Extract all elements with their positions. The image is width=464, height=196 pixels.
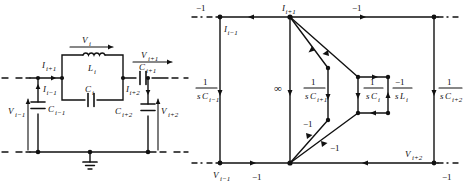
frac-loopc-den-c: C <box>371 91 378 101</box>
label-Cip1: C <box>139 62 146 72</box>
arrowhead-loop-bottom <box>370 111 376 116</box>
node-dot <box>36 150 41 155</box>
label-Iip1-sub: i+1 <box>46 65 56 73</box>
node-label-Vip2-sub: i+2 <box>412 154 423 162</box>
signal-flow-graph: I i−1 I i+1 V i−1 V i+2 −1 −1 −1 −1 −1 −… <box>190 0 464 196</box>
arrow-Iip2-head <box>146 90 151 95</box>
label-Cip2: C <box>115 106 122 116</box>
gain-top-right: −1 <box>352 3 362 13</box>
label-Li: L <box>87 63 93 73</box>
node-dot-loop-tr <box>386 75 390 79</box>
node-dot <box>88 150 93 155</box>
figure-root: V i V i+1 L i C i I i+1 I i−1 I i+2 V i−… <box>0 0 464 196</box>
node-dot-bottom-left <box>218 161 223 166</box>
frac-left-den-s: s <box>197 91 201 101</box>
inductor-Li-coil <box>83 53 105 55</box>
node-label-Vip2: V <box>405 149 412 159</box>
node-dot-bottom-mid <box>287 160 292 165</box>
node-dot <box>146 150 151 155</box>
wire-lc-topleft <box>62 55 83 78</box>
frac-mid-den-c: C <box>310 91 317 101</box>
arrowhead-diag-top-loop <box>323 50 330 56</box>
node-dot-loop-bl <box>356 111 360 115</box>
label-Li-sub: i <box>94 68 96 76</box>
frac-left-den-sub: i−1 <box>209 96 219 104</box>
edge-fan-top-to-mid <box>290 17 328 68</box>
node-dot-mid-bottom <box>326 118 330 122</box>
arrowhead-bottom-left <box>250 160 256 165</box>
frac-loopc-den-s: s <box>366 91 370 101</box>
label-Cim1-sub: i−1 <box>55 109 65 117</box>
frac-loopc-num: 1 <box>370 77 375 87</box>
node-dot-mid-top <box>326 66 330 70</box>
gain-top-left: −1 <box>196 3 206 13</box>
label-Vip2: V <box>161 106 168 116</box>
label-Vip1: V <box>141 50 148 60</box>
gain-diag-mid: −1 <box>303 119 313 129</box>
arrowhead-diag-top-mid <box>309 46 315 53</box>
node-dot-loop-tl <box>356 75 360 79</box>
node-dot <box>36 76 40 80</box>
ladder-network-circuit: V i V i+1 L i C i I i+1 I i−1 I i+2 V i−… <box>0 0 190 196</box>
label-Ci: C <box>85 84 92 94</box>
arrow-Vim1-head <box>26 99 31 104</box>
node-dot <box>146 76 150 80</box>
frac-mid-den-sub: i+1 <box>317 96 327 104</box>
arrow-Iip1-head <box>51 76 56 81</box>
arrowhead-loop-right <box>386 92 391 98</box>
label-Vi: V <box>82 35 89 45</box>
arrow-Vip2-head <box>156 99 161 104</box>
frac-left-den-c: C <box>202 91 209 101</box>
frac-loopc-den-sub: i <box>378 96 380 104</box>
arrowhead-top-left <box>248 14 254 19</box>
frac-mid-den-s: s <box>305 91 309 101</box>
label-Vim1-sub: i−1 <box>15 111 25 119</box>
node-label-Iip1-sub: i+1 <box>286 8 296 16</box>
wire-lc-botright <box>97 78 123 100</box>
arrowhead-infinity <box>288 90 293 96</box>
label-Vip1-sub: i+1 <box>148 55 158 63</box>
node-dot-top-left <box>218 15 223 20</box>
frac-right-num: 1 <box>447 77 452 87</box>
frac-right-den-s: s <box>440 91 444 101</box>
frac-right-den-c: C <box>445 91 452 101</box>
frac-loopl-den-s: s <box>395 91 399 101</box>
arrowhead-bottom-right <box>362 160 368 165</box>
frac-right-den-sub: i+2 <box>452 96 463 104</box>
frac-mid-num: 1 <box>311 77 316 87</box>
arrow-Vip1-head <box>167 60 172 65</box>
node-label-Iim1-sub: i−1 <box>228 29 238 37</box>
arrow-Vi-head <box>108 45 113 50</box>
gain-bottom-left: −1 <box>252 172 262 182</box>
node-dot <box>60 76 64 80</box>
node-dot-bottom-right <box>432 161 437 166</box>
gain-diag-low: −1 <box>330 143 340 153</box>
label-Vip2-sub: i+2 <box>168 111 179 119</box>
label-Iip2-sub: i+2 <box>130 89 141 97</box>
wire-lc-topright <box>105 55 123 78</box>
arrow-Iim1-head <box>36 84 41 89</box>
node-label-Vim1-sub: i−1 <box>220 175 230 183</box>
label-Cim1: C <box>48 104 55 114</box>
frac-left-num: 1 <box>203 77 208 87</box>
node-dot-top-right <box>432 15 437 20</box>
label-Cip2-sub: i+2 <box>122 111 133 119</box>
arrowhead-diag-bot-loop <box>321 141 328 147</box>
label-Vi-sub: i <box>89 40 91 48</box>
wire-lc-botleft <box>62 78 85 100</box>
frac-loopl-den-c: L <box>399 91 405 101</box>
gain-infinity: ∞ <box>274 82 282 94</box>
arrowhead-loop-left <box>356 93 361 99</box>
arrowhead-right-vertical <box>432 90 437 96</box>
node-label-Vim1: V <box>213 170 220 180</box>
edge-fan-top-to-loop <box>290 17 358 77</box>
gain-bottom-right: −1 <box>442 172 452 182</box>
label-Cip1-sub: i+1 <box>146 67 156 75</box>
edge-loop-to-bottom <box>290 113 358 163</box>
node-dot-loop-br <box>386 111 390 115</box>
frac-loopl-num: −1 <box>395 77 405 87</box>
arrowhead-top-right <box>360 14 366 19</box>
label-Iim1-sub: i−1 <box>47 89 57 97</box>
frac-loopl-den-sub: i <box>406 96 408 104</box>
label-Vim1: V <box>8 106 15 116</box>
